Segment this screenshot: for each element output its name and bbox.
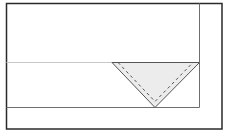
diagram-canvas	[0, 0, 228, 137]
